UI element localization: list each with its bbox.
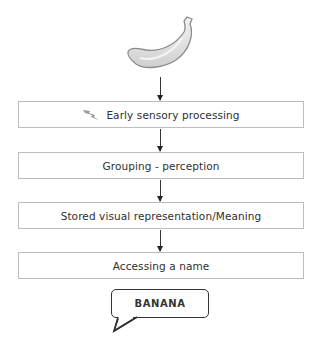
stage-label: Grouping - perception <box>103 160 220 172</box>
flow-arrow <box>160 230 161 251</box>
stage-box-accessing-name: Accessing a name <box>18 252 304 279</box>
flow-arrow <box>160 180 161 201</box>
stage-label: Stored visual representation/Meaning <box>61 210 262 222</box>
lightning-icon <box>82 109 100 121</box>
stage-box-grouping: Grouping - perception <box>18 152 304 179</box>
output-word: BANANA <box>134 298 185 309</box>
flow-arrow <box>160 77 161 100</box>
stage-box-early-sensory: Early sensory processing <box>18 101 304 128</box>
stage-label: Early sensory processing <box>106 109 239 121</box>
stage-label: Accessing a name <box>113 260 210 272</box>
banana-icon <box>124 14 204 74</box>
object-recognition-flowchart: Early sensory processing Grouping - perc… <box>0 0 317 346</box>
speech-bubble-tail-outline <box>111 314 151 334</box>
flow-arrow <box>160 129 161 151</box>
stage-box-stored-representation: Stored visual representation/Meaning <box>18 202 304 229</box>
